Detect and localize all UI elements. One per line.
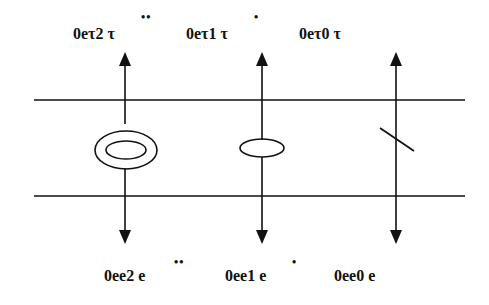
single-dot-marker: •: [254, 10, 259, 25]
column-0th-order: [380, 52, 414, 244]
bottom-label-2: 0ee2 e: [104, 267, 145, 285]
inner-ellipse-icon: [106, 141, 146, 159]
single-dot-marker: •: [292, 255, 297, 270]
down-arrow-icon: [119, 230, 131, 244]
double-dot-marker: ••: [141, 10, 151, 25]
damper-ellipse-icon: [240, 139, 284, 157]
top-label-1: 0eτ1 τ: [186, 25, 228, 43]
column-2nd-order: [95, 52, 157, 244]
up-arrow-icon: [256, 52, 268, 66]
down-arrow-icon: [256, 230, 268, 244]
top-label-2: 0eτ2 τ: [73, 25, 115, 43]
diagram-canvas: [0, 0, 489, 305]
spring-slash-icon: [380, 128, 414, 151]
up-arrow-icon: [390, 52, 402, 66]
double-dot-marker: ••: [174, 255, 184, 270]
column-1st-order: [240, 52, 284, 244]
down-arrow-icon: [390, 230, 402, 244]
top-label-0: 0eτ0 τ: [299, 25, 341, 43]
up-arrow-icon: [119, 52, 131, 66]
bottom-label-0: 0ee0 e: [334, 267, 375, 285]
outer-ellipse-icon: [95, 131, 157, 169]
bottom-label-1: 0ee1 e: [225, 267, 266, 285]
